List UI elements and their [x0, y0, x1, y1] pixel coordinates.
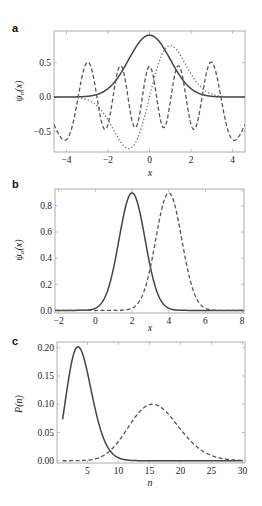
x-tick-label: 6 — [203, 316, 208, 326]
y-tick-label: 0.5 — [39, 58, 51, 68]
y-tick-label: 0.8 — [40, 201, 52, 211]
x-tick-label: 15 — [145, 466, 155, 476]
y-tick-label: 0.20 — [37, 343, 54, 353]
x-axis-label-b: x — [147, 322, 153, 333]
x-tick-label: 0 — [147, 155, 152, 165]
y-tick-label: 0.15 — [37, 371, 54, 381]
curve-dashed — [63, 404, 243, 461]
x-tick-label: 30 — [238, 466, 248, 476]
y-tick-label: 0.2 — [40, 280, 52, 290]
x-tick-label: 4 — [166, 316, 171, 326]
panel-letter-a: a — [12, 22, 19, 34]
x-tick-label: 8 — [240, 316, 245, 326]
figure: a −4−20240.50.0−0.5 x ψn(x) b −2024680.0… — [0, 0, 262, 506]
x-tick-label: 5 — [85, 466, 90, 476]
x-tick-label: 20 — [176, 466, 186, 476]
curve-dashed — [54, 62, 245, 140]
plot-frame-b — [55, 189, 244, 313]
panel-letter-b: b — [12, 178, 19, 190]
curve-solid — [55, 193, 244, 310]
x-tick-label: 10 — [114, 466, 124, 476]
panel-b: b −2024680.00.20.40.60.8 x ψα(x) — [12, 178, 245, 333]
x-tick-label: 25 — [207, 466, 217, 476]
x-axis-label-c: n — [148, 477, 153, 488]
y-tick-label: 0.00 — [37, 456, 54, 466]
x-tick-label: −2 — [54, 316, 64, 326]
plot-area-b: −2024680.00.20.40.60.8 — [40, 189, 245, 326]
y-tick-label: 0.4 — [40, 253, 52, 263]
x-tick-label: 2 — [130, 316, 135, 326]
y-tick-label: 0.0 — [40, 306, 52, 316]
panel-c: c 510152025300.000.050.100.150.20 n P(n) — [12, 335, 248, 488]
y-axis-label-b: ψα(x) — [13, 239, 26, 261]
x-tick-label: −2 — [103, 155, 113, 165]
panel-a: a −4−20240.50.0−0.5 x ψn(x) — [12, 22, 245, 178]
y-tick-label: 0.10 — [37, 399, 54, 409]
plot-area-a: −4−20240.50.0−0.5 — [34, 31, 245, 165]
y-axis-label-c: P(n) — [13, 394, 25, 413]
y-tick-label: 0.05 — [37, 428, 54, 438]
x-tick-label: 2 — [189, 155, 194, 165]
panel-letter-c: c — [12, 335, 18, 347]
plot-frame-a — [54, 31, 245, 152]
x-tick-label: −4 — [61, 155, 71, 165]
y-tick-label: 0.6 — [40, 227, 52, 237]
x-axis-label-a: x — [147, 167, 153, 178]
x-tick-label: 0 — [93, 316, 98, 326]
y-tick-label: −0.5 — [34, 127, 51, 137]
y-tick-label: 0.0 — [39, 92, 51, 102]
y-axis-label-a: ψn(x) — [13, 80, 26, 101]
curve-dashed — [55, 193, 244, 310]
x-tick-label: 4 — [230, 155, 235, 165]
plot-area-c: 510152025300.000.050.100.150.20 — [37, 342, 247, 476]
